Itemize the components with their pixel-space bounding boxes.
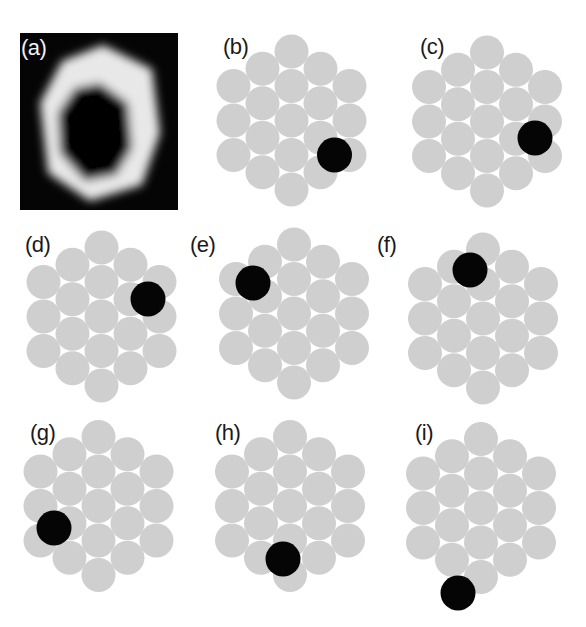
particle-circle: [493, 543, 527, 577]
particle-circle: [406, 526, 440, 560]
particle-circle: [493, 508, 527, 542]
particle-circle: [493, 474, 527, 508]
panel-label: (i): [415, 422, 433, 444]
particle-circle: [406, 457, 440, 491]
particle-circle: [435, 439, 469, 473]
particle-circle: [522, 491, 556, 525]
highlighted-particle: [441, 576, 476, 611]
particle-cluster: [0, 0, 586, 627]
particle-circle: [406, 491, 440, 525]
particle-circle: [522, 526, 556, 560]
particle-circle: [464, 526, 498, 560]
particle-circle: [464, 422, 498, 456]
particle-circle: [493, 439, 527, 473]
particle-circle: [435, 474, 469, 508]
particle-circle: [435, 543, 469, 577]
particle-circle: [464, 457, 498, 491]
particle-circle: [522, 457, 556, 491]
particle-circle: [435, 508, 469, 542]
particle-circle: [464, 491, 498, 525]
